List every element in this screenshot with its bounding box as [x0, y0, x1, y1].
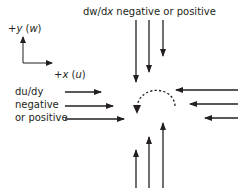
right-leftward-arrows [176, 90, 238, 118]
left-rightward-arrows [65, 92, 124, 119]
top-down-arrows [136, 20, 163, 82]
axes-icon [23, 37, 52, 63]
curved-dashed-arrow-icon [133, 90, 175, 114]
diagram-canvas [0, 0, 241, 193]
bottom-up-arrows [136, 123, 163, 188]
